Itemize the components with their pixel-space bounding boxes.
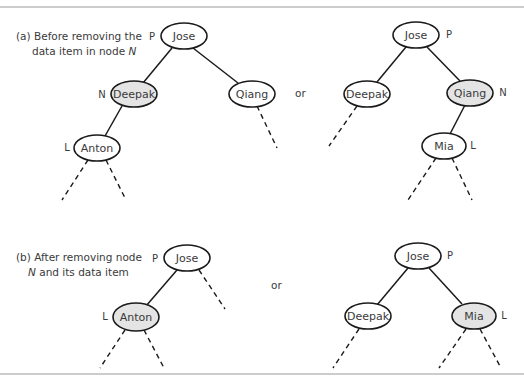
node-anton-label: Anton <box>81 142 114 155</box>
panel-b-caption-line2-italic: N <box>28 266 36 278</box>
panel-a-caption-line2-text: data item in node <box>32 45 129 57</box>
panel-b-or-label: or <box>271 279 282 291</box>
dashed-subtree-qiang <box>257 106 277 148</box>
dashed-subtree-anton-left <box>62 160 88 200</box>
dashed-subtree-anton-left <box>100 330 125 368</box>
node-mia: Mia L <box>452 303 507 329</box>
node-jose: Jose P <box>395 243 453 269</box>
node-qiang: Qiang <box>229 81 275 107</box>
panel-b-left-tree: Jose P Anton L <box>100 245 225 368</box>
node-deepak: Deepak <box>344 81 390 107</box>
edge-deepak-anton <box>105 106 122 136</box>
edge-qiang-mia <box>450 105 465 134</box>
node-jose-label: Jose <box>172 30 196 43</box>
panel-b-caption-line1: (b) After removing node <box>16 251 142 263</box>
panel-a-or-label: or <box>295 87 306 99</box>
dashed-subtree-anton-right <box>106 160 126 200</box>
node-jose: Jose P <box>149 23 207 49</box>
node-mia-tag: L <box>501 310 507 321</box>
edge-jose-anton <box>146 270 177 306</box>
bst-removal-diagram: (a) Before removing the data item in nod… <box>0 0 524 386</box>
edge-jose-qiang <box>427 47 460 81</box>
node-deepak-label: Deepak <box>113 88 156 101</box>
dashed-subtree-mia-right <box>452 158 472 200</box>
dashed-subtree-mia-right <box>480 329 501 368</box>
node-deepak-label: Deepak <box>346 88 389 101</box>
dashed-subtree-jose-right <box>199 270 225 309</box>
node-mia-label: Mia <box>434 140 453 153</box>
node-jose: Jose P <box>393 22 452 48</box>
panel-b-caption: (b) After removing node N and its data i… <box>16 251 142 278</box>
panel-b-right-tree: Jose P Deepak Mia L <box>333 243 507 368</box>
node-mia-label: Mia <box>464 310 483 323</box>
dashed-subtree-anton-right <box>144 330 164 368</box>
node-mia: Mia L <box>422 133 476 159</box>
panel-b-caption-line2: N and its data item <box>28 266 129 278</box>
edge-jose-deepak <box>377 47 406 82</box>
dashed-subtree-deepak <box>333 329 359 368</box>
node-qiang-label: Qiang <box>236 88 268 101</box>
node-anton: Anton L <box>102 303 159 331</box>
panel-a-caption: (a) Before removing the data item in nod… <box>16 30 142 57</box>
edge-jose-deepak <box>143 48 172 83</box>
node-jose-tag: P <box>152 253 158 264</box>
node-mia-tag: L <box>470 140 476 151</box>
node-anton-label: Anton <box>120 311 153 324</box>
node-jose: Jose P <box>152 245 210 271</box>
node-anton-tag: L <box>64 142 70 153</box>
edge-jose-mia <box>429 268 462 304</box>
panel-a-right-tree: Jose P Deepak Qiang N Mia L <box>329 22 507 200</box>
panel-b-caption-line2-text: and its data item <box>36 266 129 278</box>
dashed-subtree-mia-left <box>408 158 436 200</box>
dashed-subtree-mia-left <box>439 329 466 368</box>
node-jose-tag: P <box>447 250 453 261</box>
node-deepak-tag: N <box>98 89 105 100</box>
node-deepak: Deepak <box>345 303 391 329</box>
node-jose-tag: P <box>149 31 155 42</box>
edge-jose-qiang <box>193 48 238 83</box>
node-deepak-label: Deepak <box>347 310 390 323</box>
node-jose-label: Jose <box>406 250 430 263</box>
node-anton-tag: L <box>102 311 108 322</box>
node-jose-tag: P <box>446 29 452 40</box>
node-jose-label: Jose <box>175 252 199 265</box>
node-anton: Anton L <box>64 135 120 161</box>
panel-a-caption-line2-italic: N <box>129 45 137 57</box>
node-deepak: Deepak N <box>98 81 157 107</box>
node-qiang-label: Qiang <box>454 87 486 100</box>
node-jose-label: Jose <box>404 29 428 42</box>
edge-jose-deepak <box>377 268 408 305</box>
panel-a-caption-line2: data item in node N <box>32 45 137 57</box>
dashed-subtree-deepak <box>329 106 357 146</box>
node-qiang-tag: N <box>499 87 506 98</box>
panel-a-caption-line1: (a) Before removing the <box>16 30 142 42</box>
node-qiang: Qiang N <box>447 80 507 106</box>
